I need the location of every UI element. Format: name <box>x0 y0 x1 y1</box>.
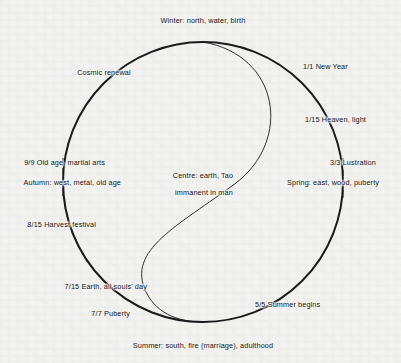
label-heaven-light: 1/15 Heaven, light <box>305 115 366 124</box>
label-harvest-festival: 8/15 Harvest festival <box>27 220 96 229</box>
label-centre-line2: immanent in man <box>175 188 233 197</box>
label-lustration: 3/3 Lustration <box>330 158 376 167</box>
label-old-age: 9/9 Old age, martial arts <box>24 158 105 167</box>
label-autumn: Autumn: west, metal, old age <box>24 178 121 187</box>
label-cosmic-renewal: Cosmic renewal <box>77 68 131 77</box>
label-winter: Winter: north, water, birth <box>161 16 246 25</box>
cycle-diagram: Winter: north, water, birth Summer: sout… <box>0 0 401 363</box>
outer-circle-arc-lower-left <box>63 182 203 322</box>
label-summer-begins: 5/5 Summer begins <box>255 300 320 309</box>
yin-yang-s-curve <box>142 42 271 322</box>
label-puberty: 7/7 Puberty <box>91 309 130 318</box>
label-spring: Spring: east, wood, puberty <box>287 178 379 187</box>
label-summer: Summer: south, fire (marriage), adulthoo… <box>133 341 273 350</box>
label-new-year: 1/1 New Year <box>303 62 348 71</box>
label-all-souls-day: 7/15 Earth, all souls' day <box>65 282 147 291</box>
label-centre-line1: Centre: earth, Tao <box>173 171 233 180</box>
